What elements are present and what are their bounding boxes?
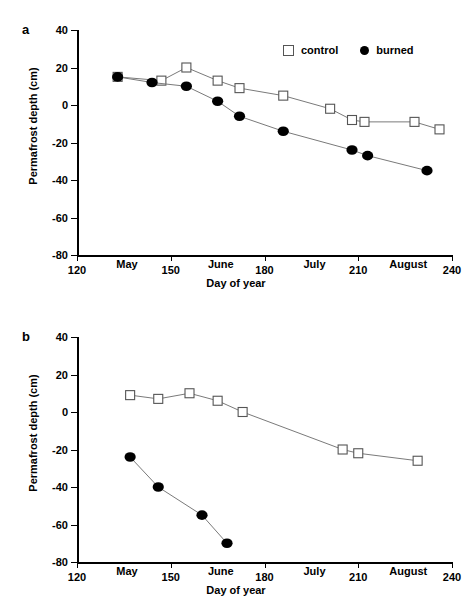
data-point-control bbox=[410, 117, 419, 126]
y-tick bbox=[71, 412, 77, 413]
x-tick-label: 150 bbox=[162, 264, 180, 276]
y-tick bbox=[71, 337, 77, 338]
series-line-burned bbox=[118, 77, 427, 171]
x-tick bbox=[452, 562, 453, 568]
panel-a-y-axis-label: Permafrost depth (cm) bbox=[27, 31, 39, 221]
x-month-label: August bbox=[389, 565, 427, 577]
data-point-control bbox=[435, 125, 444, 134]
data-point-burned bbox=[421, 166, 432, 176]
panel-a-plot-area: 40200-20-40-60-80120150180210240MayJuneJ… bbox=[77, 30, 452, 255]
data-point-burned bbox=[234, 111, 245, 121]
x-tick bbox=[171, 562, 172, 568]
data-point-control bbox=[354, 449, 363, 458]
data-point-burned bbox=[146, 78, 157, 88]
data-point-control bbox=[185, 389, 194, 398]
x-tick bbox=[452, 255, 453, 261]
x-tick bbox=[265, 562, 266, 568]
data-point-control bbox=[126, 391, 135, 400]
data-point-burned bbox=[221, 538, 232, 548]
data-point-burned bbox=[278, 126, 289, 136]
x-tick bbox=[358, 562, 359, 568]
data-point-control bbox=[279, 91, 288, 100]
data-point-control bbox=[326, 104, 335, 113]
y-tick bbox=[71, 487, 77, 488]
data-point-burned bbox=[181, 81, 192, 91]
y-tick-label: -40 bbox=[52, 174, 68, 186]
y-tick bbox=[71, 68, 77, 69]
x-tick-label: 180 bbox=[255, 571, 273, 583]
y-tick-label: 0 bbox=[62, 406, 68, 418]
y-tick-label: -40 bbox=[52, 481, 68, 493]
y-tick bbox=[71, 450, 77, 451]
panel-b-x-axis-label: Day of year bbox=[0, 584, 472, 596]
x-month-label: June bbox=[208, 565, 234, 577]
y-tick-label: 40 bbox=[56, 24, 68, 36]
y-tick-label: -80 bbox=[52, 556, 68, 568]
x-tick-label: 120 bbox=[68, 264, 86, 276]
x-tick-label: 180 bbox=[255, 264, 273, 276]
panel-a-x-axis-label: Day of year bbox=[0, 277, 472, 289]
x-tick-label: 210 bbox=[349, 264, 367, 276]
panel-a-legend: control burned bbox=[283, 44, 414, 56]
x-month-label: June bbox=[208, 258, 234, 270]
y-tick-label: 20 bbox=[56, 62, 68, 74]
series-burned bbox=[112, 72, 433, 175]
legend-entry-control: control bbox=[283, 44, 338, 56]
y-tick bbox=[71, 375, 77, 376]
data-point-control bbox=[413, 456, 422, 465]
x-month-label: May bbox=[116, 258, 137, 270]
data-point-control bbox=[338, 445, 347, 454]
x-tick-label: 150 bbox=[162, 571, 180, 583]
y-tick-label: -20 bbox=[52, 137, 68, 149]
panel-b-y-axis-label: Permafrost depth (cm) bbox=[27, 338, 39, 528]
data-point-control bbox=[238, 408, 247, 417]
data-point-burned bbox=[196, 510, 207, 520]
x-month-label: May bbox=[116, 565, 137, 577]
legend-entry-burned: burned bbox=[360, 44, 413, 56]
data-point-control bbox=[182, 63, 191, 72]
series-control bbox=[126, 389, 423, 466]
panel-b-series-layer bbox=[77, 337, 452, 562]
data-point-control bbox=[235, 84, 244, 93]
figure-permafrost-depth: a Permafrost depth (cm) 40200-20-40-60-8… bbox=[0, 0, 472, 613]
data-point-control bbox=[213, 76, 222, 85]
data-point-control bbox=[213, 396, 222, 405]
x-tick bbox=[358, 255, 359, 261]
y-tick-label: 40 bbox=[56, 331, 68, 343]
x-month-label: July bbox=[303, 258, 325, 270]
x-month-label: July bbox=[303, 565, 325, 577]
data-point-burned bbox=[362, 151, 373, 161]
y-tick-label: 20 bbox=[56, 369, 68, 381]
x-tick-label: 210 bbox=[349, 571, 367, 583]
series-control bbox=[113, 63, 444, 134]
x-tick bbox=[171, 255, 172, 261]
series-line-control bbox=[130, 393, 418, 461]
y-tick-label: -20 bbox=[52, 444, 68, 456]
panel-b: b Permafrost depth (cm) 40200-20-40-60-8… bbox=[0, 307, 472, 613]
x-tick bbox=[265, 255, 266, 261]
data-point-burned bbox=[153, 482, 164, 492]
data-point-burned bbox=[112, 72, 123, 82]
x-tick bbox=[77, 562, 78, 568]
panel-a: a Permafrost depth (cm) 40200-20-40-60-8… bbox=[0, 0, 472, 306]
x-tick bbox=[77, 255, 78, 261]
y-tick bbox=[71, 525, 77, 526]
x-tick-label: 120 bbox=[68, 571, 86, 583]
y-tick-label: -60 bbox=[52, 212, 68, 224]
panel-b-plot-area: 40200-20-40-60-80120150180210240MayJuneJ… bbox=[77, 337, 452, 562]
data-point-burned bbox=[346, 145, 357, 155]
y-tick bbox=[71, 180, 77, 181]
y-tick-label: 0 bbox=[62, 99, 68, 111]
data-point-control bbox=[360, 117, 369, 126]
open-square-icon bbox=[283, 45, 294, 56]
series-burned bbox=[125, 452, 233, 548]
y-tick bbox=[71, 30, 77, 31]
y-tick bbox=[71, 105, 77, 106]
data-point-burned bbox=[212, 96, 223, 106]
y-tick-label: -60 bbox=[52, 519, 68, 531]
legend-label-control: control bbox=[301, 44, 338, 56]
y-tick bbox=[71, 143, 77, 144]
x-tick-label: 240 bbox=[443, 571, 461, 583]
y-tick-label: -80 bbox=[52, 249, 68, 261]
data-point-control bbox=[348, 116, 357, 125]
